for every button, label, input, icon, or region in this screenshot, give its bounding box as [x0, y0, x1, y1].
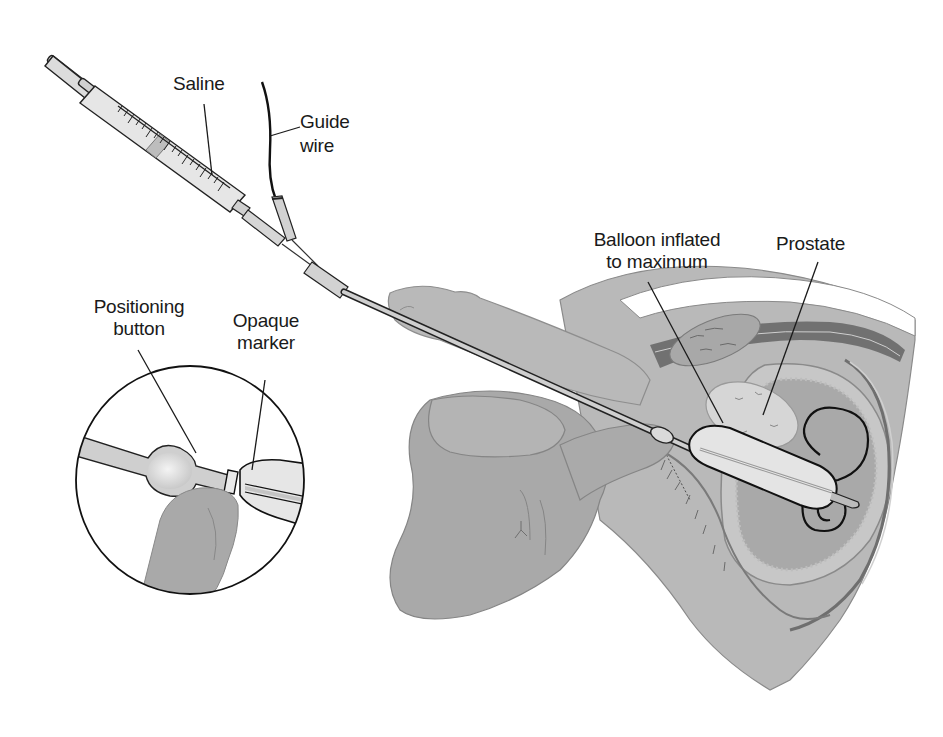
- guide-wire-leader: [270, 127, 300, 136]
- label-guide-wire-line2: wire: [300, 135, 350, 157]
- label-prostate: Prostate: [776, 233, 845, 255]
- guide-wire: [262, 82, 276, 200]
- label-balloon: Balloon inflated to maximum: [574, 229, 740, 273]
- label-guide-wire: Guide wire: [300, 111, 350, 157]
- label-saline: Saline: [173, 73, 225, 95]
- label-positioning-line2: button: [84, 318, 194, 340]
- label-positioning-button: Positioning button: [84, 296, 194, 340]
- saline-leader: [204, 104, 212, 175]
- label-opaque-line2: marker: [224, 332, 308, 354]
- syringe: [45, 54, 285, 246]
- label-opaque-marker: Opaque marker: [224, 310, 308, 354]
- label-balloon-line1: Balloon inflated: [574, 229, 740, 251]
- label-positioning-line1: Positioning: [84, 296, 194, 318]
- label-opaque-line1: Opaque: [224, 310, 308, 332]
- label-balloon-line2: to maximum: [574, 251, 740, 273]
- balloon-dilation-illustration: [0, 0, 943, 737]
- positioning-button: [148, 453, 192, 489]
- inset-magnifier: [55, 366, 350, 620]
- label-guide-wire-line1: Guide: [300, 111, 350, 133]
